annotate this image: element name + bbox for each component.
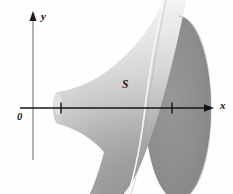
solid-of-revolution-figure: [0, 0, 233, 194]
horn-solid: [53, 0, 211, 194]
y-axis: [29, 11, 36, 160]
x-axis-label: x: [220, 100, 226, 111]
origin-label: 0: [17, 112, 22, 123]
y-axis-label: y: [41, 11, 46, 22]
figure-container: y x 0 S: [0, 0, 233, 194]
solid-region-label: S: [122, 79, 128, 91]
y-axis-arrowhead: [29, 11, 36, 21]
